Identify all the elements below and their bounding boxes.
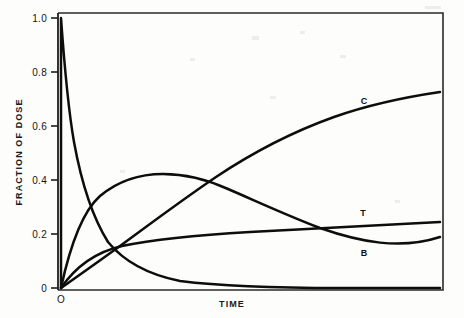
y-tick-label-0: 0 [41, 283, 47, 294]
chart-figure: 1.0 0.8 0.6 0.4 0.2 0 O FRACTION OF DOSE… [0, 0, 464, 318]
y-axis-ticks [51, 18, 58, 288]
y-tick-label-0-6: 0.6 [32, 121, 47, 132]
curve-label-T: T [360, 208, 366, 218]
origin-label: O [57, 294, 65, 305]
y-tick-label-1-0: 1.0 [32, 13, 47, 24]
y-tick-label-0-4: 0.4 [32, 175, 47, 186]
curve-label-C: C [361, 96, 368, 106]
y-tick-label-0-2: 0.2 [32, 229, 47, 240]
curve-bound-B [61, 222, 440, 288]
y-tick-label-0-8: 0.8 [32, 67, 47, 78]
curve-cumulative-C [61, 92, 440, 288]
x-axis-title: TIME [219, 299, 245, 309]
y-axis-title: FRACTION OF DOSE [14, 98, 24, 205]
curve-label-B: B [361, 248, 368, 258]
